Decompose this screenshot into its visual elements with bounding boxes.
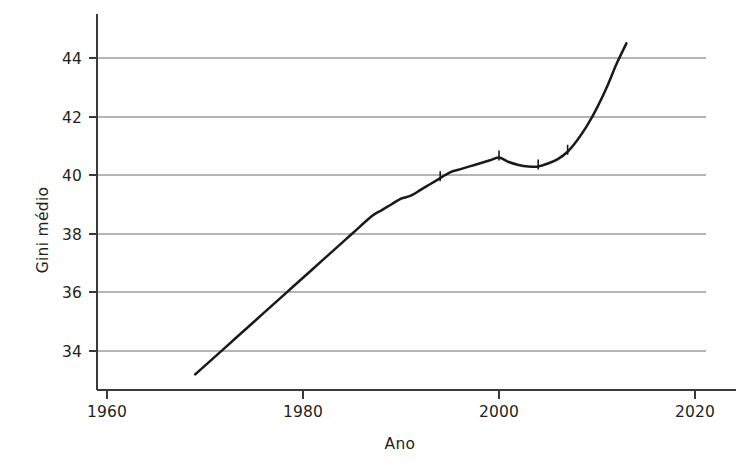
y-tick-label-44: 44 [62,50,82,68]
x-tick-label-1960: 1960 [87,403,127,421]
x-axis-title: Ano [385,435,416,453]
x-tick-label-2020: 2020 [675,403,715,421]
y-tick-label-38: 38 [62,226,82,244]
y-axis-title: Gini médio [34,187,52,274]
y-tick-label-34: 34 [62,343,82,361]
x-tick-label-1980: 1980 [283,403,323,421]
y-tick-label-42: 42 [62,109,82,127]
gini-line-chart: 44 42 40 38 36 34 1960 1980 2000 2020 Gi… [0,0,740,471]
x-tick-label-2000: 2000 [479,403,519,421]
y-tick-label-40: 40 [62,167,82,185]
chart-background [0,0,740,471]
y-tick-label-36: 36 [62,284,82,302]
